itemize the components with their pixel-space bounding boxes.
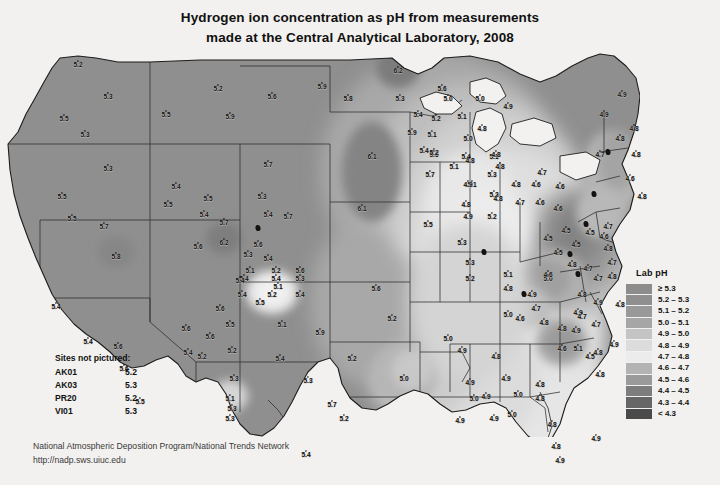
site-ph-label: 4.8 — [535, 380, 544, 389]
site-ph-value: 5.4 — [235, 277, 244, 284]
site-ph-label: 5.5 — [161, 110, 170, 119]
site-ph-value: 4.7 — [577, 313, 586, 320]
site-ph-label: 5.0 — [399, 374, 408, 383]
site-ph-value: 5.4 — [237, 291, 246, 298]
site-ph-value: 4.8 — [491, 151, 500, 158]
site-ph-label: 4.8 — [557, 324, 566, 333]
site-ph-label: 5.9 — [407, 128, 416, 137]
site-ph-value: 4.8 — [595, 371, 604, 378]
footer-organization: National Atmospheric Deposition Program/… — [33, 440, 289, 454]
site-ph-value: 4.8 — [551, 443, 560, 450]
site-ph-label: 5.4 — [263, 210, 272, 219]
legend-row: 5.1 – 5.2 — [626, 306, 712, 317]
site-ph-label: 5.3 — [227, 404, 236, 413]
legend-row: 4.4 – 4.5 — [626, 386, 712, 397]
site-ph-label: 5.1 — [225, 394, 234, 403]
site-ph-value: 5.3 — [103, 93, 112, 100]
site-ph-value: 5.1 — [457, 113, 466, 120]
site-ph-value: 5.0 — [513, 391, 522, 398]
site-ph-value: 4.8 — [577, 291, 586, 298]
site-ph-value: 5.4 — [295, 291, 304, 298]
site-ph-value: 4.8 — [593, 349, 602, 356]
site-ph-value: 5.3 — [103, 165, 112, 172]
site-ph-label: 5.7 — [99, 222, 108, 231]
site-ph-value: 5.5 — [255, 299, 264, 306]
site-ph-value: 4.6 — [557, 345, 566, 352]
site-ph-label: 5.4 — [51, 302, 60, 311]
site-ph-label: 4.5 — [561, 226, 570, 235]
site-ph-value: 5.8 — [111, 253, 120, 260]
site-ph-label: 5.4 — [237, 290, 246, 299]
legend-label: 4.8 – 4.9 — [658, 342, 689, 350]
site-not-pictured-row: AK035.3 — [55, 379, 137, 392]
site-ph-label: 6.2 — [219, 238, 228, 247]
site-ph-label: 4.8 — [551, 442, 560, 451]
site-ph-value: 5.4 — [275, 355, 284, 362]
site-ph-value: 5.1 — [449, 163, 458, 170]
site-ph-label: 4.9 — [555, 456, 564, 465]
site-ph-label: 4.9 — [503, 102, 512, 111]
site-ph-value: 5.4 — [301, 451, 310, 458]
site-ph-value: 5.3 — [303, 377, 312, 384]
site-ph-value: 5.0 — [475, 95, 484, 102]
site-ph-value: 5.6 — [205, 333, 214, 340]
site-ph-label: 4.7 — [595, 150, 604, 159]
site-ph-label: 5.5 — [59, 114, 68, 123]
map-page: Hydrogen ion concentration as pH from me… — [0, 0, 720, 485]
site-ph-value: 5.3 — [229, 375, 238, 382]
site-ph-value: 5.0 — [463, 135, 472, 142]
site-ph-value: 5.5 — [423, 221, 432, 228]
site-ph-value: 5.9 — [407, 129, 416, 136]
legend-label: 4.5 – 4.6 — [658, 376, 689, 384]
site-ph-label: 4.7 — [577, 312, 586, 321]
site-ph-label: 5.0 — [475, 94, 484, 103]
site-ph-value: 5.2 — [465, 275, 474, 282]
site-ph-value: 5.7 — [99, 223, 108, 230]
site-ph-label: 5.4 — [183, 348, 192, 357]
site-ph-label: 4.8 — [461, 200, 470, 209]
site-ph-label: 5.5 — [203, 194, 212, 203]
site-ph-label: 5.3 — [229, 374, 238, 383]
site-ph-label: 5.2 — [213, 84, 222, 93]
legend-rows: ≥ 5.35.2 – 5.35.1 – 5.25.0 – 5.14.9 – 5.… — [626, 283, 712, 420]
site-ph-value: 4.5 — [585, 353, 594, 360]
sites-not-pictured-heading: Sites not pictured: — [55, 352, 137, 365]
legend-label: 4.9 – 5.0 — [658, 330, 689, 338]
site-ph-value: 4.8 — [557, 325, 566, 332]
site-ph-value: 5.3 — [395, 95, 404, 102]
site-ph-value: 5.4 — [263, 211, 272, 218]
site-ph-value: 5.0 — [503, 311, 512, 318]
site-ph-value: 5.5 — [161, 111, 170, 118]
site-ph-value: 5.9 — [225, 113, 234, 120]
site-ph-value: 5.7 — [219, 219, 228, 226]
site-ph-value: 4.8 — [491, 353, 500, 360]
site-ph-label: 5.7 — [263, 160, 272, 169]
legend-swatch — [626, 375, 652, 385]
site-ph-label: 5.0 — [469, 394, 478, 403]
legend-swatch — [626, 409, 652, 419]
site-ph-label: 5.5 — [225, 320, 234, 329]
site-ph-label: 4.5 — [571, 240, 580, 249]
site-ph-value: 5.6 — [253, 241, 262, 248]
site-ph-label: 5.5 — [423, 220, 432, 229]
site-ph-value: 5.6 — [113, 343, 122, 350]
site-ph-label: 5.3 — [303, 376, 312, 385]
site-ph-label: 4.8 — [615, 300, 624, 309]
site-ph-value: 5.1 — [503, 271, 512, 278]
site-ph-value: 5.0 — [507, 411, 516, 418]
site-ph-value: 4.6 — [599, 233, 608, 240]
site-ph-label: 4.8 — [465, 156, 474, 165]
site-ph-value: 5.2 — [387, 315, 396, 322]
legend-label: ≥ 5.3 — [658, 285, 676, 293]
site-ph-label: 5.6 — [181, 324, 190, 333]
site-ph-label: 4.9 — [609, 340, 618, 349]
site-ph-value: 4.7 — [591, 321, 600, 328]
site-ph-label: 5.4 — [171, 182, 180, 191]
site-ph-label: 4.7 — [583, 264, 592, 273]
site-code: VI01 — [55, 405, 125, 418]
site-ph-label: 4.8 — [607, 272, 616, 281]
site-ph-value: 5.6 — [193, 243, 202, 250]
site-ph-label: 4.9 — [463, 180, 472, 189]
site-ph-value: 5.0 — [469, 395, 478, 402]
site-ph-label: 4.9 — [599, 110, 608, 119]
